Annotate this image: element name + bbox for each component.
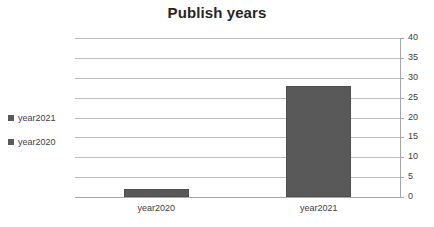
y-axis-tick-30: [400, 78, 404, 79]
y-axis-label: 15: [408, 132, 418, 141]
y-axis-label: 35: [408, 53, 418, 62]
gridline-10: [75, 157, 400, 158]
plot-area: [75, 38, 400, 197]
bar-chart: Publish years year2021year2020 051015202…: [0, 0, 434, 227]
y-axis-label: 40: [408, 33, 418, 42]
y-axis-label: 10: [408, 152, 418, 161]
gridline-0: [75, 197, 400, 198]
gridline-35: [75, 58, 400, 59]
y-axis-tick-25: [400, 98, 404, 99]
legend-item-year2021[interactable]: year2021: [8, 110, 74, 126]
category-label-year2021: year2021: [238, 203, 401, 213]
y-axis-tick-35: [400, 58, 404, 59]
y-axis-label: 5: [408, 172, 413, 181]
bar-year2020[interactable]: [124, 189, 189, 197]
y-axis-label: 30: [408, 73, 418, 82]
category-label-year2020: year2020: [75, 203, 238, 213]
y-axis-tick-40: [400, 38, 404, 39]
y-axis-tick-10: [400, 157, 404, 158]
legend-swatch-icon: [8, 139, 14, 145]
y-axis-label: 25: [408, 93, 418, 102]
y-axis-tick-15: [400, 137, 404, 138]
chart-legend: year2021year2020: [8, 110, 74, 158]
y-axis-tick-0: [400, 197, 404, 198]
legend-item-year2020[interactable]: year2020: [8, 134, 74, 150]
gridline-5: [75, 177, 400, 178]
y-axis-tick-20: [400, 118, 404, 119]
y-axis-label: 0: [408, 192, 413, 201]
y-axis-label: 20: [408, 113, 418, 122]
chart-title: Publish years: [0, 4, 434, 21]
bar-year2021[interactable]: [286, 86, 351, 197]
legend-item-label: year2020: [18, 138, 56, 147]
gridline-25: [75, 98, 400, 99]
legend-swatch-icon: [8, 115, 14, 121]
gridline-30: [75, 78, 400, 79]
gridline-20: [75, 118, 400, 119]
y-axis-tick-5: [400, 177, 404, 178]
gridline-40: [75, 38, 400, 39]
legend-item-label: year2021: [18, 114, 56, 123]
gridline-15: [75, 137, 400, 138]
